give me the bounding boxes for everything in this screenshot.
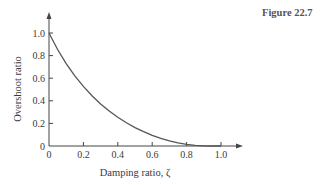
x-tick-label: 1.0: [215, 149, 228, 160]
x-axis-arrow-icon: [236, 144, 243, 149]
x-axis-title: Damping ratio, ζ: [100, 167, 171, 179]
x-tick-label: 0: [47, 149, 52, 160]
y-axis-arrow-icon: [47, 12, 52, 19]
y-tick-label: 1.0: [33, 28, 46, 39]
x-tick-label: 0.6: [146, 149, 159, 160]
overshoot-chart: 00.20.40.60.81.000.20.40.60.81.0 Damping…: [0, 0, 332, 185]
y-tick-label: 0.8: [33, 50, 46, 61]
x-tick-label: 0.2: [77, 149, 90, 160]
y-tick-label: 0.4: [33, 95, 46, 106]
x-tick-label: 0.4: [112, 149, 125, 160]
y-tick-label: 0: [40, 141, 45, 152]
x-tick-label: 0.8: [180, 149, 193, 160]
y-tick-label: 0.6: [33, 73, 46, 84]
axes: 00.20.40.60.81.000.20.40.60.81.0: [33, 12, 244, 160]
y-tick-label: 0.2: [33, 118, 46, 129]
y-axis-title: Overshoot ratio: [12, 56, 23, 122]
overshoot-curve: [49, 33, 221, 146]
